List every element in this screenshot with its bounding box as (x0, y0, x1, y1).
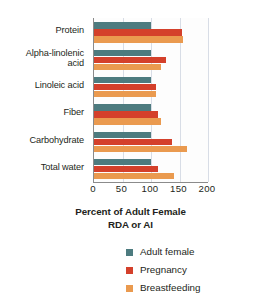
bar (94, 146, 187, 152)
category-label-line: Linoleic acid (0, 80, 84, 90)
category-label-line: Total water (0, 162, 84, 172)
bar (94, 36, 183, 42)
category-label: Carbohydrate (0, 135, 84, 145)
bar (94, 173, 174, 179)
bar (94, 77, 151, 83)
legend-item: Breastfeeding (126, 279, 246, 297)
category-label: Protein (0, 25, 84, 35)
bar (94, 159, 151, 165)
bar-group (94, 100, 208, 127)
bar (94, 91, 156, 97)
bar-group (94, 73, 208, 100)
x-axis-title: Percent of Adult Female RDA or AI (0, 205, 261, 231)
category-label-line: Protein (0, 25, 84, 35)
bar (94, 132, 151, 138)
bar-group (94, 18, 208, 45)
legend-label: Pregnancy (140, 264, 187, 276)
bar (94, 64, 161, 70)
bar-group (94, 45, 208, 72)
category-label-line: Fiber (0, 107, 84, 117)
category-label: Fiber (0, 107, 84, 117)
x-axis-title-line1: Percent of Adult Female (0, 205, 261, 218)
category-label-line: Carbohydrate (0, 135, 84, 145)
category-label: Total water (0, 162, 84, 172)
bar (94, 118, 161, 124)
category-label-line: Alpha-linolenic (0, 48, 84, 58)
bar (94, 29, 182, 35)
plot-area (93, 18, 208, 183)
legend-label: Breastfeeding (140, 282, 200, 294)
legend-swatch-icon (126, 285, 133, 292)
x-tick-label: 150 (170, 183, 187, 195)
x-tick-label: 100 (142, 183, 159, 195)
legend-item: Pregnancy (126, 261, 246, 279)
bar (94, 22, 151, 28)
bar (94, 139, 172, 145)
bar (94, 104, 151, 110)
bar (94, 84, 156, 90)
legend-swatch-icon (126, 249, 133, 256)
x-tick-label: 50 (116, 183, 127, 195)
bar (94, 57, 166, 63)
category-label: Linoleic acid (0, 80, 84, 90)
chart-legend: Adult femalePregnancyBreastfeeding (126, 243, 246, 297)
x-axis-title-line2: RDA or AI (0, 218, 261, 231)
category-label: Alpha-linolenicacid (0, 48, 84, 69)
legend-label: Adult female (140, 246, 194, 258)
bar (94, 111, 158, 117)
x-tick-label: 0 (90, 183, 96, 195)
bar (94, 166, 158, 172)
bar-group (94, 127, 208, 154)
bar (94, 50, 151, 56)
x-axis-tick-labels: 050100150200 (0, 183, 261, 196)
grouped-bar-chart: ProteinAlpha-linolenicacidLinoleic acidF… (0, 0, 261, 303)
gridline (208, 18, 209, 182)
legend-item: Adult female (126, 243, 246, 261)
category-label-line: acid (0, 58, 84, 68)
category-axis-labels: ProteinAlpha-linolenicacidLinoleic acidF… (0, 18, 88, 182)
plot-wrapper: ProteinAlpha-linolenicacidLinoleic acidF… (0, 0, 261, 196)
legend-swatch-icon (126, 267, 133, 274)
x-tick-label: 200 (199, 183, 216, 195)
bar-group (94, 155, 208, 182)
